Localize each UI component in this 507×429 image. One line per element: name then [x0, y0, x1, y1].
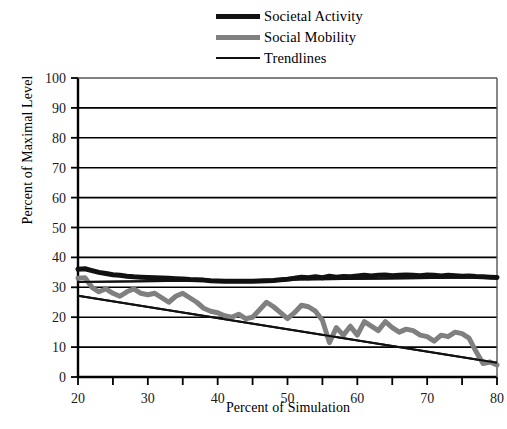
svg-text:50: 50 — [52, 221, 66, 236]
gridlines — [78, 108, 497, 347]
svg-text:40: 40 — [52, 250, 66, 265]
svg-text:10: 10 — [52, 340, 66, 355]
svg-text:30: 30 — [52, 280, 66, 295]
svg-text:90: 90 — [52, 101, 66, 116]
svg-text:60: 60 — [52, 191, 66, 206]
svg-text:70: 70 — [52, 161, 66, 176]
svg-text:20: 20 — [52, 310, 66, 325]
y-axis-title: Percent of Maximal Level — [20, 50, 36, 250]
x-axis-title: Percent of Simulation — [78, 400, 498, 416]
y-axis-tick-labels: 0102030405060708090100 — [45, 71, 66, 385]
svg-text:100: 100 — [45, 71, 66, 86]
chart-figure: Societal Activity Social Mobility Trendl… — [0, 0, 507, 429]
plot-area: 0102030405060708090100 20304050607080 — [0, 0, 507, 429]
x-axis-ticks — [78, 377, 497, 385]
svg-text:0: 0 — [59, 370, 66, 385]
svg-text:80: 80 — [52, 131, 66, 146]
